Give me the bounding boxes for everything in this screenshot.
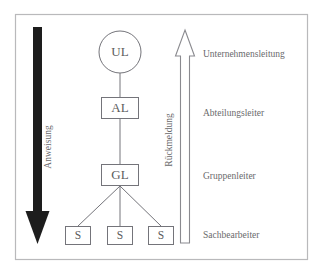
anweisung-label: Anweisung xyxy=(43,125,53,169)
node-gl-label: GL xyxy=(111,167,128,182)
level-label-gruppenleiter: Gruppenleiter xyxy=(203,171,257,181)
node-s1-label: S xyxy=(75,229,81,241)
node-s1[interactable]: S xyxy=(66,227,91,245)
node-al[interactable]: AL xyxy=(102,98,139,119)
level-label-abteilungsleiter: Abteilungsleiter xyxy=(203,108,265,118)
node-s2[interactable]: S xyxy=(108,227,133,245)
node-s3[interactable]: S xyxy=(149,227,174,245)
level-label-sachbearbeiter: Sachbearbeiter xyxy=(203,230,260,240)
cropped-text-remnant xyxy=(0,0,322,8)
connector-gl-s1 xyxy=(78,186,120,226)
node-s3-label: S xyxy=(158,229,164,241)
node-al-label: AL xyxy=(111,100,128,115)
node-ul[interactable]: UL xyxy=(99,31,141,73)
rueckmeldung-arrow xyxy=(176,30,195,243)
anweisung-arrow-shaft xyxy=(33,27,42,216)
node-gl[interactable]: GL xyxy=(102,165,139,186)
level-label-unternehmensleitung: Unternehmensleitung xyxy=(203,49,285,59)
rueckmeldung-label: Rückmeldung xyxy=(164,113,174,167)
connector-gl-s3 xyxy=(120,186,161,226)
anweisung-arrow-head xyxy=(26,211,50,244)
rueckmeldung-arrow-shape xyxy=(176,30,195,243)
org-hierarchy-diagram: Anweisung Rückmeldung UL AL GL xyxy=(0,0,322,269)
node-ul-label: UL xyxy=(111,44,128,59)
diagram-canvas: Anweisung Rückmeldung UL AL GL xyxy=(0,0,322,269)
node-s2-label: S xyxy=(117,229,123,241)
